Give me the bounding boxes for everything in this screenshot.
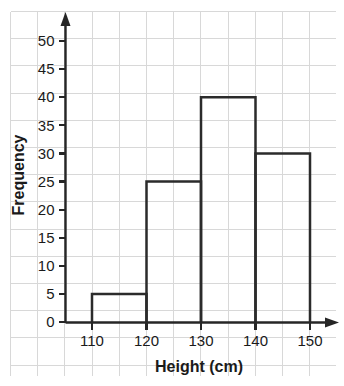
x-axis-title: Height (cm) <box>155 358 243 375</box>
x-axis-tick-label: 140 <box>243 332 268 349</box>
y-axis-tick-label: 5 <box>46 285 54 302</box>
y-axis-tick-label: 20 <box>38 201 55 218</box>
x-axis-tick-label: 150 <box>297 332 322 349</box>
y-axis-tick-label: 15 <box>38 229 55 246</box>
y-axis-tick-label: 30 <box>38 145 55 162</box>
x-axis-tick-label: 130 <box>188 332 213 349</box>
y-axis-tick-label: 45 <box>38 60 55 77</box>
y-axis-tick-label: 35 <box>38 117 55 134</box>
histogram-chart: 05101520253035404550 110120130140150 Fre… <box>0 0 344 386</box>
x-axis-tick-label: 120 <box>134 332 159 349</box>
x-axis-tick-label: 110 <box>80 332 104 349</box>
y-axis-tick-label: 10 <box>38 257 55 274</box>
y-axis-title: Frequency <box>10 134 27 215</box>
y-axis-tick-label: 0 <box>46 313 54 330</box>
y-axis-tick-label: 50 <box>38 32 55 49</box>
y-axis-tick-label: 25 <box>38 173 55 190</box>
y-axis-tick-label: 40 <box>38 88 55 105</box>
chart-canvas: 05101520253035404550 110120130140150 Fre… <box>0 0 344 386</box>
